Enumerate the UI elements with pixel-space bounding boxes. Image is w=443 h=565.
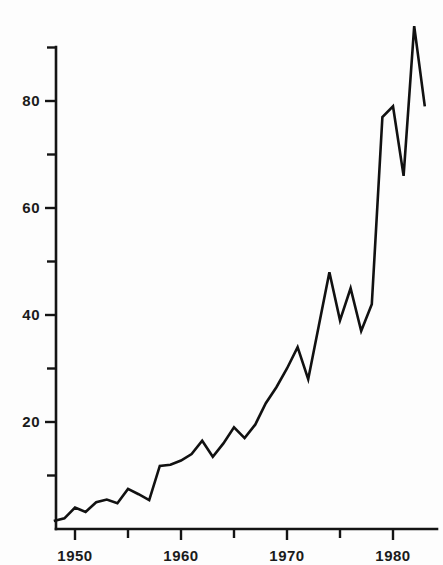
chart-container: 204060801950196019701980	[0, 0, 443, 565]
data-line-series-1	[54, 26, 425, 521]
chart-data-series	[54, 26, 425, 521]
chart-axes	[56, 47, 437, 529]
x-tick-label-1970: 1970	[269, 547, 304, 564]
y-tick-label-40: 40	[22, 306, 40, 323]
y-tick-label-20: 20	[22, 413, 40, 430]
line-chart: 204060801950196019701980	[0, 0, 443, 565]
chart-tick-marks	[45, 48, 393, 541]
y-tick-label-60: 60	[22, 199, 40, 216]
x-tick-label-1980: 1980	[375, 547, 410, 564]
chart-tick-labels: 204060801950196019701980	[22, 92, 410, 564]
x-tick-label-1960: 1960	[163, 547, 198, 564]
y-tick-label-80: 80	[22, 92, 40, 109]
x-tick-label-1950: 1950	[57, 547, 92, 564]
